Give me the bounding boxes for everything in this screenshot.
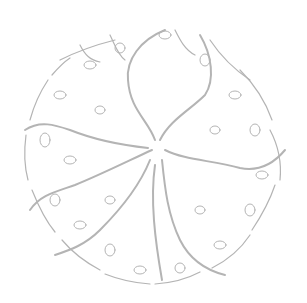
canopy-twigs xyxy=(25,30,281,284)
tree-icon xyxy=(0,0,307,303)
